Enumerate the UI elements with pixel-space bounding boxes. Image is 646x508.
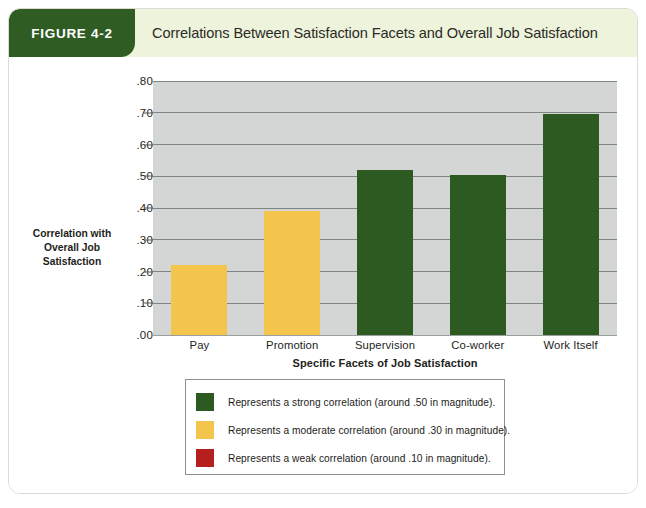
figure-title: Correlations Between Satisfaction Facets…: [152, 9, 629, 57]
gridline: [153, 81, 617, 82]
gridline: [153, 112, 617, 113]
figure-number-badge: FIGURE 4-2: [9, 9, 135, 57]
x-category-label: Supervision: [339, 339, 432, 351]
bar-supervision: [357, 170, 413, 335]
x-category-label: Work Itself: [524, 339, 617, 351]
x-category-label: Promotion: [246, 339, 339, 351]
y-tick-mark: [144, 303, 153, 304]
legend-swatch: [196, 421, 214, 439]
figure-page: FIGURE 4-2 Correlations Between Satisfac…: [0, 0, 646, 508]
y-tick-mark: [144, 239, 153, 240]
legend-label: Represents a weak correlation (around .1…: [228, 453, 491, 464]
legend-swatch: [196, 449, 214, 467]
chart-zone: Correlation with Overall Job Satisfactio…: [9, 57, 638, 494]
legend-label: Represents a strong correlation (around …: [228, 397, 495, 408]
chart-legend: Represents a strong correlation (around …: [185, 379, 505, 475]
y-tick-mark: [144, 112, 153, 113]
bar-promotion: [264, 211, 320, 335]
bar-work-itself: [543, 114, 599, 335]
x-category-label: Co-worker: [431, 339, 524, 351]
figure-card: FIGURE 4-2 Correlations Between Satisfac…: [8, 8, 638, 494]
y-tick-label: .80: [119, 75, 153, 87]
bar-pay: [171, 265, 227, 335]
legend-swatch: [196, 393, 214, 411]
bar-co-worker: [450, 175, 506, 335]
y-tick-mark: [144, 271, 153, 272]
x-category-label: Pay: [153, 339, 246, 351]
legend-row: Represents a moderate correlation (aroun…: [196, 417, 494, 443]
y-axis-ticks: .00.10.20.30.40.50.60.70.80: [107, 81, 153, 335]
y-tick-mark: [144, 176, 153, 177]
legend-row: Represents a weak correlation (around .1…: [196, 445, 494, 471]
y-tick-mark: [144, 208, 153, 209]
y-tick-label: .00: [119, 329, 153, 341]
x-axis-title: Specific Facets of Job Satisfaction: [153, 357, 617, 369]
legend-row: Represents a strong correlation (around …: [196, 389, 494, 415]
y-tick-mark: [144, 144, 153, 145]
legend-label: Represents a moderate correlation (aroun…: [228, 425, 510, 436]
figure-header: FIGURE 4-2 Correlations Between Satisfac…: [9, 9, 638, 57]
